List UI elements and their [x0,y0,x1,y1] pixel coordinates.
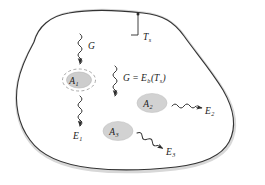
enclosure-interior-fill [17,10,234,169]
irradiation-label-G-center: G = Eb(Ts) [123,73,166,84]
figure-canvas: Ts G A1 G = Eb(Ts) E1 [0,0,265,185]
radiation-enclosure-figure: Ts G A1 G = Eb(Ts) E1 [0,0,265,185]
irradiation-label-G-left: G [88,41,95,51]
